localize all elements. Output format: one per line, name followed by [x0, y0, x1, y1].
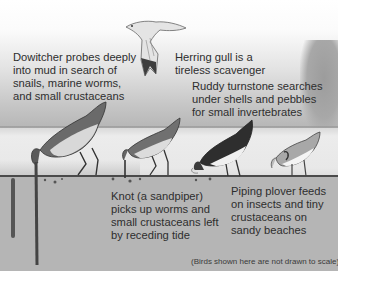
caption-line: under shells and pebbles: [192, 93, 323, 106]
caption-line: picks up worms and: [111, 203, 219, 216]
caption-line: on insects and tiny: [231, 198, 326, 211]
caption-line: Herring gull is a: [175, 51, 265, 64]
caption-line: tireless scavenger: [175, 64, 265, 77]
caption-line: Piping plover feeds: [231, 185, 326, 198]
caption-line: and small crustaceans: [13, 90, 136, 103]
burrow-icon: [11, 178, 15, 238]
caption-line: small crustaceans left: [111, 216, 219, 229]
dowitcher-caption: Dowitcher probes deeply into mud in sear…: [13, 51, 136, 103]
illustration-panel: Dowitcher probes deeply into mud in sear…: [0, 0, 338, 271]
caption-line: sandy beaches: [231, 224, 326, 237]
knot-caption: Knot (a sandpiper) picks up worms and sm…: [111, 190, 219, 242]
piping-plover-icon: [271, 132, 320, 176]
caption-line: into mud in search of: [13, 64, 136, 77]
caption-line: by receding tide: [111, 229, 219, 242]
caption-line: for small invertebrates: [192, 106, 323, 119]
caption-line: Knot (a sandpiper): [111, 190, 219, 203]
caption-line: crustaceans on: [231, 211, 326, 224]
scale-footnote: (Birds shown here are not drawn to scale…: [191, 257, 338, 266]
caption-line: Ruddy turnstone searches: [192, 80, 323, 93]
ruddy-turnstone-caption: Ruddy turnstone searches under shells an…: [192, 80, 323, 119]
dowitcher-icon: [31, 102, 106, 265]
piping-plover-caption: Piping plover feeds on insects and tiny …: [231, 185, 326, 237]
herring-gull-caption: Herring gull is a tireless scavenger: [175, 51, 265, 77]
ruddy-turnstone-icon: [192, 120, 253, 176]
caption-line: Dowitcher probes deeply: [13, 51, 136, 64]
caption-line: snails, marine worms,: [13, 77, 136, 90]
pebbles-icon: [44, 178, 212, 184]
knot-icon: [123, 118, 180, 178]
